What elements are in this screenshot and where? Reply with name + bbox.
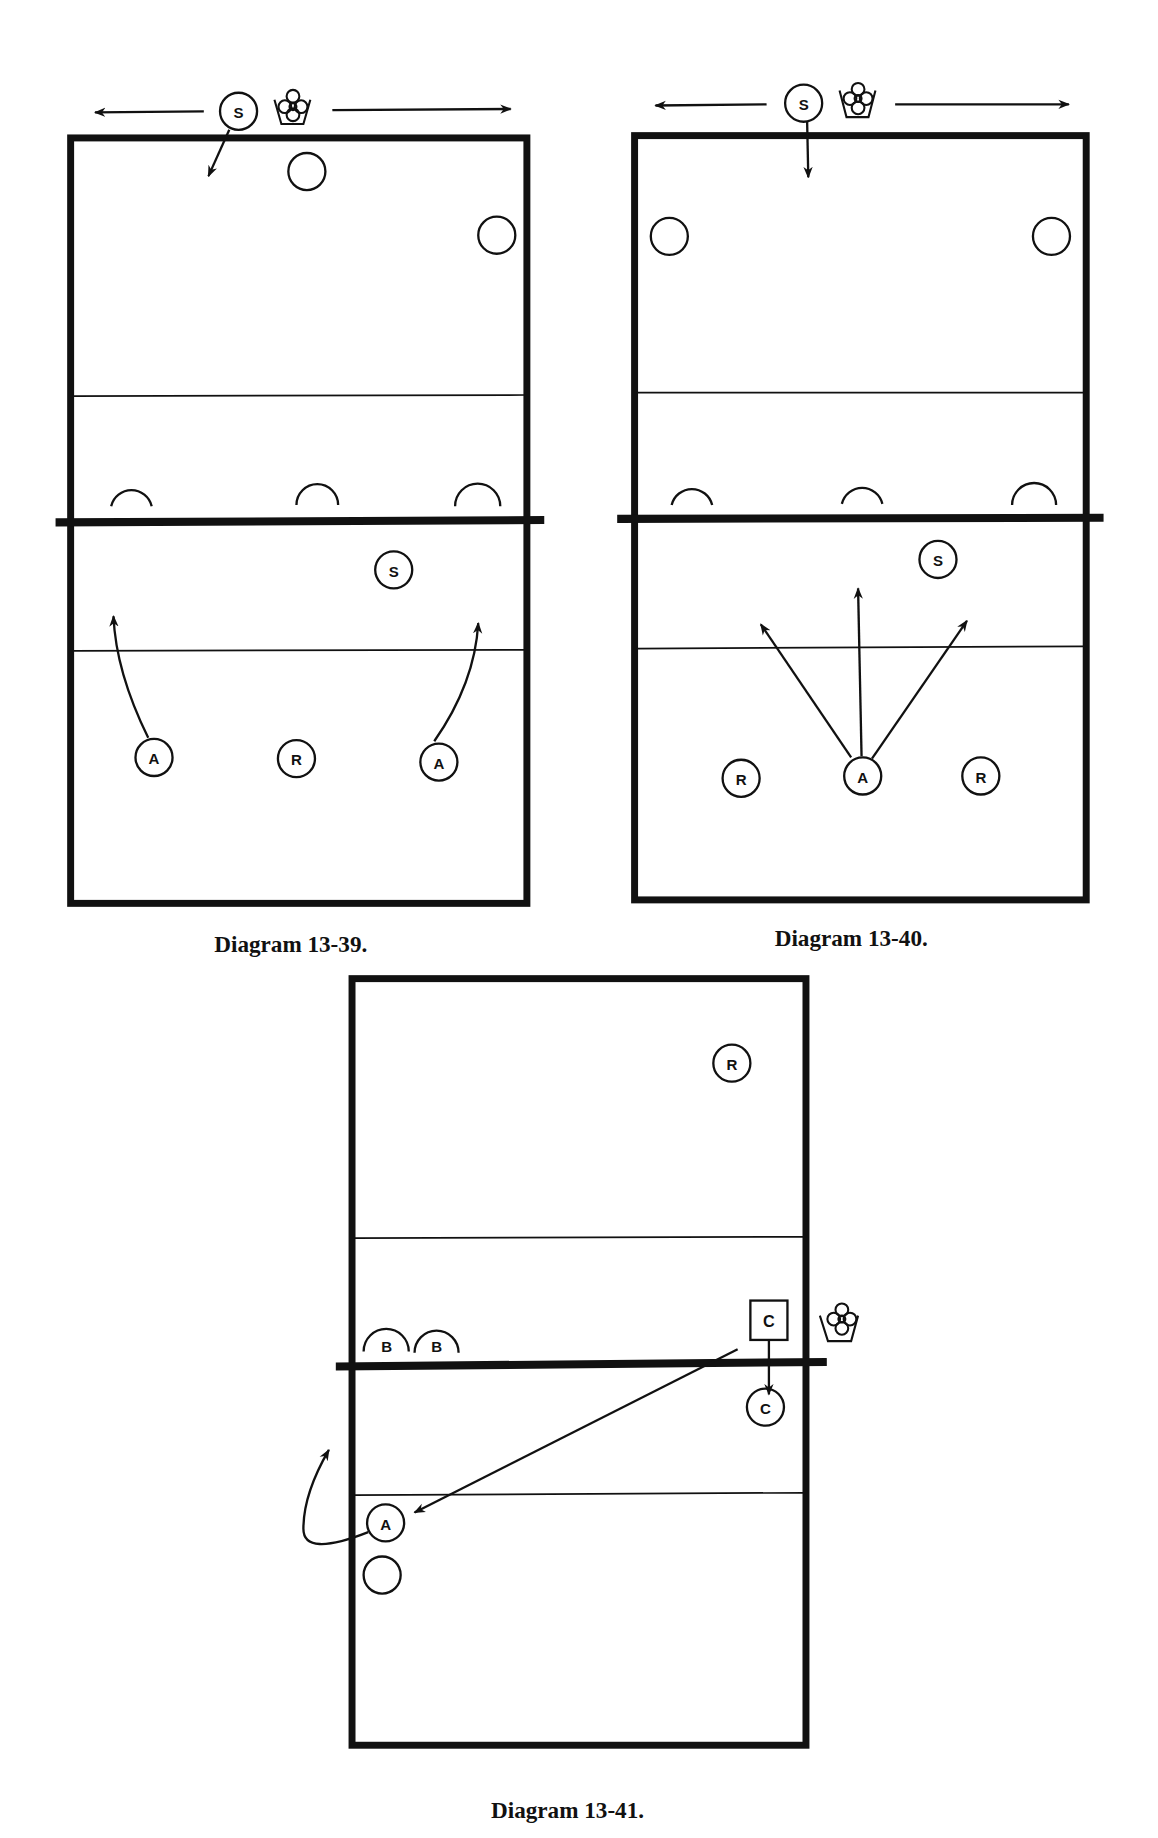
- caption-13-40: Diagram 13-40.: [775, 925, 928, 951]
- player-label: B: [381, 1338, 392, 1355]
- player-label: R: [291, 751, 302, 768]
- player-label: R: [975, 769, 986, 786]
- diagram-13-41: [303, 979, 858, 1746]
- attack-line-top: [354, 1237, 803, 1238]
- ball-basket-icon: [840, 83, 876, 117]
- blocker-icon: [672, 489, 713, 505]
- net: [56, 520, 545, 522]
- player-label: R: [726, 1056, 737, 1073]
- player-label: A: [433, 755, 444, 772]
- player-circle-icon: [288, 153, 325, 190]
- blocker-icon: [1012, 483, 1056, 505]
- player-label: A: [380, 1516, 391, 1533]
- player-label: R: [736, 771, 747, 788]
- player-circle-icon: [1033, 218, 1070, 255]
- player-label: S: [799, 96, 809, 113]
- player-circle-icon: [364, 1556, 401, 1593]
- attack-line-bottom: [354, 1493, 803, 1495]
- drills-page: S S A R A S S R A R R C C A B B Diagram …: [0, 0, 1158, 1838]
- approach-arrow-left: [761, 624, 851, 757]
- player-label: A: [857, 769, 868, 786]
- ball-basket-icon: [274, 90, 310, 124]
- player-label: B: [431, 1338, 442, 1355]
- diagram-13-39: [56, 90, 545, 903]
- net: [336, 1362, 827, 1367]
- move-right-arrow: [332, 109, 510, 110]
- player-label: S: [933, 552, 943, 569]
- blocker-icon: [296, 484, 338, 505]
- toss-arrow: [415, 1349, 738, 1512]
- net: [617, 518, 1103, 519]
- caption-13-41: Diagram 13-41.: [491, 1797, 644, 1823]
- player-circle-icon: [651, 218, 688, 255]
- approach-arrow-middle: [858, 588, 861, 756]
- approach-arrow-right: [872, 621, 967, 759]
- approach-arrow-right: [434, 623, 478, 741]
- player-label: C: [763, 1312, 775, 1330]
- approach-arrow-left: [113, 616, 148, 738]
- move-left-arrow: [655, 104, 766, 105]
- attack-line-bottom: [73, 650, 525, 651]
- attack-line-top: [73, 395, 525, 396]
- blocker-icon: [111, 490, 152, 506]
- player-circle-icon: [478, 217, 515, 254]
- player-label: S: [234, 104, 244, 121]
- attacker-path-arrow: [303, 1450, 368, 1544]
- move-left-arrow: [95, 111, 204, 112]
- blocker-icon: [842, 488, 883, 504]
- blocker-icon: [455, 484, 500, 507]
- serve-arrow: [807, 122, 808, 178]
- player-label: C: [760, 1400, 771, 1417]
- player-label: S: [389, 563, 399, 580]
- caption-13-39: Diagram 13-39.: [214, 931, 367, 957]
- player-label: A: [149, 750, 160, 767]
- ball-basket-icon: [820, 1303, 858, 1341]
